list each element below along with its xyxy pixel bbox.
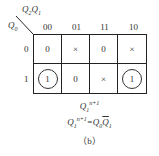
row-variable-label: Q0 (8, 20, 18, 32)
circled-cell: 1 (122, 69, 142, 89)
karnaugh-map: 0 × 0 × 1 0 × 1 (33, 34, 147, 94)
equation: Q1n+1=Q0Q1 (10, 116, 159, 129)
kmap-cell: 0 (90, 35, 118, 64)
col-header: 10 (119, 22, 148, 32)
circled-cell: 1 (38, 69, 58, 89)
col-header: 00 (33, 22, 62, 32)
row-header: 1 (24, 74, 29, 84)
col-variable-label: Q2Q1 (22, 4, 41, 16)
kmap-cell: × (62, 35, 90, 64)
col-header: 11 (90, 22, 119, 32)
kmap-cell: 1 (34, 64, 62, 93)
caption: （b） (10, 134, 159, 147)
col-header: 01 (62, 22, 91, 32)
row-header: 0 (24, 44, 29, 54)
kmap-cell: × (90, 64, 118, 93)
kmap-cell: 0 (34, 35, 62, 64)
kmap-cell: × (118, 35, 146, 64)
kmap-cell: 0 (62, 64, 90, 93)
output-label: Q1n+1 (10, 100, 159, 113)
kmap-cell: 1 (118, 64, 146, 93)
